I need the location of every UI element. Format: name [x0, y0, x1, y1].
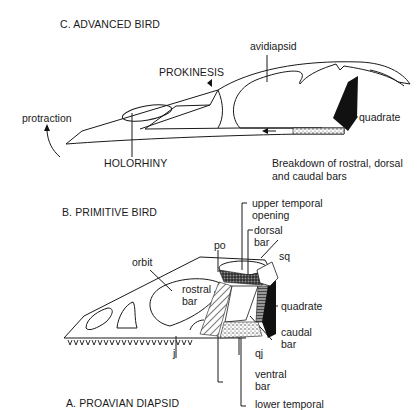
panel-c-inner-arrow [262, 128, 268, 134]
label-qj: qj [255, 347, 263, 359]
label-quadrate-c: quadrate [359, 111, 400, 123]
label-orbit: orbit [132, 256, 152, 268]
label-ventral-line1: ventral [255, 368, 287, 380]
label-quadrate-b: quadrate [281, 300, 322, 312]
panel-a-title: A. PROAVIAN DIAPSID [66, 397, 179, 409]
panel-c-title: C. ADVANCED BIRD [60, 18, 160, 30]
label-breakdown-line2: and caudal bars [272, 170, 347, 182]
label-rostral-line2: bar [182, 295, 197, 307]
teeth [68, 340, 192, 345]
label-avidiapsid: avidiapsid [250, 40, 297, 52]
label-breakdown-line1: Breakdown of rostral, dorsal [272, 157, 403, 169]
ventral-bar-shade [220, 322, 262, 338]
label-prokinesis: PROKINESIS [159, 66, 224, 78]
label-lower-temporal: lower temporal [255, 398, 324, 410]
label-ventral-line2: bar [255, 380, 270, 392]
label-caudal-line1: caudal [281, 326, 312, 338]
panel-c-protraction-arrowhead [44, 124, 50, 131]
label-dorsal-line2: bar [254, 236, 269, 248]
panel-b-title: B. PRIMITIVE BIRD [62, 206, 157, 218]
label-sq: sq [279, 250, 290, 262]
label-upper-temporal-line2: opening [252, 209, 289, 221]
label-po: po [214, 239, 226, 251]
label-j: j [173, 347, 175, 359]
label-dorsal-line1: dorsal [254, 224, 283, 236]
label-protraction: protraction [22, 112, 72, 124]
label-holorhiny: HOLORHINY [104, 157, 167, 169]
panel-c-quadrate-shape [333, 76, 358, 131]
panel-c-breakdown-stipple [293, 128, 344, 134]
label-upper-temporal-line1: upper temporal [252, 197, 323, 209]
panel-c-prokinesis-arrow [207, 79, 212, 87]
label-caudal-line2: bar [281, 338, 296, 350]
label-rostral-line1: rostral [182, 283, 211, 295]
